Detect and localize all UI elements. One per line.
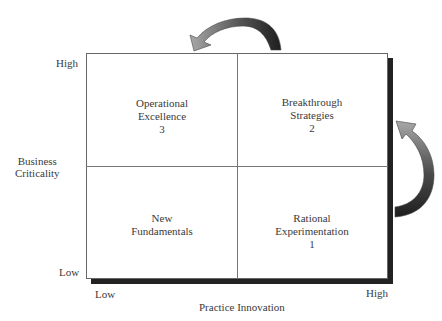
quadrant-top-right: Breakthrough Strategies 2 <box>247 96 377 135</box>
x-axis-high-label: High <box>366 287 388 299</box>
y-axis-title-line2: Criticality <box>15 167 60 179</box>
quadrant-label-line2: Fundamentals <box>97 225 227 238</box>
curved-arrow-icon <box>175 12 290 54</box>
quadrant-label-line1: Operational <box>97 97 227 110</box>
x-axis-low-label: Low <box>95 288 115 300</box>
curved-arrow-icon <box>392 113 437 221</box>
quadrant-top-left: Operational Excellence 3 <box>97 97 227 136</box>
quadrant-label-line1: Breakthrough <box>247 96 377 109</box>
quadrant-bottom-right: Rational Experimentation 1 <box>247 212 377 251</box>
quadrant-label-line2: Excellence <box>97 110 227 123</box>
quadrant-bottom-left: New Fundamentals <box>97 212 227 238</box>
quadrant-number: 2 <box>247 122 377 135</box>
quadrant-label-line1: New <box>97 212 227 225</box>
quadrant-number: 1 <box>247 238 377 251</box>
y-axis-low-label: Low <box>59 266 79 278</box>
quadrant-label-line2: Strategies <box>247 109 377 122</box>
y-axis-title: Business Criticality <box>15 155 60 179</box>
y-axis-high-label: High <box>56 57 78 69</box>
quadrant-label-line2: Experimentation <box>247 225 377 238</box>
quadrant-label-line1: Rational <box>247 212 377 225</box>
y-axis-title-line1: Business <box>15 155 60 167</box>
horizontal-divider <box>86 166 388 167</box>
x-axis-title: Practice Innovation <box>199 301 285 313</box>
quadrant-number: 3 <box>97 123 227 136</box>
